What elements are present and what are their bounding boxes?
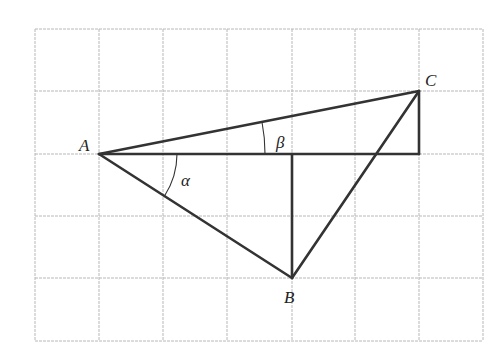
point-label-b: B [284,288,295,307]
angle-label-alpha: α [181,171,191,190]
segment-ac [99,91,419,154]
grid [35,29,483,341]
geometry-diagram: A C B α β [0,0,504,356]
angle-beta-arc [262,122,265,154]
point-label-c: C [425,71,437,90]
angle-alpha-arc [165,154,178,196]
angle-arcs [165,122,266,196]
segments [99,91,419,278]
point-label-a: A [78,136,90,155]
angle-label-beta: β [275,133,285,152]
